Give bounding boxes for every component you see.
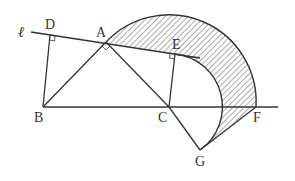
right-angle-a (102, 46, 110, 50)
point-g-label: G (195, 154, 205, 169)
line-l-label: ℓ (18, 24, 24, 40)
point-d-label: D (45, 17, 55, 32)
point-f-label: F (253, 110, 261, 125)
point-e-label: E (172, 37, 181, 52)
diagram-canvas: ℓ D A E B C F G (0, 0, 295, 181)
point-c-label: C (158, 110, 167, 125)
point-b-label: B (34, 110, 43, 125)
segment-ba (43, 42, 106, 107)
point-a-label: A (96, 25, 107, 40)
segment-cg (169, 107, 200, 150)
geometry-diagram: ℓ D A E B C F G (0, 0, 295, 181)
shaded-region (106, 15, 256, 150)
segment-ce (169, 54, 175, 107)
segment-bd (43, 35, 50, 107)
